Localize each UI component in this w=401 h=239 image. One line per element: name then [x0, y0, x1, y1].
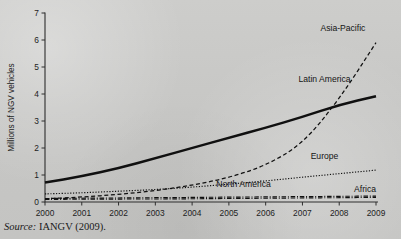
y-axis-tick-label: 0: [34, 197, 39, 207]
series-label-north-america: North America: [216, 179, 271, 189]
x-axis-tick-label: 2008: [330, 208, 349, 218]
ngv-vehicles-line-chart: 0123456720002001200220032004200520062007…: [0, 0, 401, 239]
y-axis-tick-label: 3: [34, 116, 39, 126]
series-label-latin-america: Latin America: [298, 74, 350, 84]
source-text: IANGV (2009).: [39, 221, 106, 232]
x-axis-tick-label: 2009: [367, 208, 386, 218]
series-label-africa: Africa: [354, 184, 376, 194]
y-axis-tick-label: 2: [34, 143, 39, 153]
y-axis-tick-label: 5: [34, 62, 39, 72]
series-label-europe: Europe: [311, 151, 339, 161]
x-axis-tick-label: 2004: [183, 208, 202, 218]
source-prefix: Source:: [4, 221, 36, 232]
y-axis-tick-label: 7: [34, 8, 39, 18]
x-axis-tick-label: 2001: [72, 208, 91, 218]
y-axis-tick-label: 4: [34, 89, 39, 99]
x-axis-tick-label: 2005: [220, 208, 239, 218]
series-line-latin-america: [45, 96, 376, 182]
y-axis-title: Millions of NGV vehicles: [7, 63, 16, 151]
x-axis-tick-label: 2006: [256, 208, 275, 218]
x-axis-tick-label: 2003: [146, 208, 165, 218]
series-label-asia-pacific: Asia-Pacific: [320, 23, 366, 33]
x-axis-tick-label: 2007: [293, 208, 312, 218]
y-axis-tick-label: 1: [34, 170, 39, 180]
x-axis-tick-label: 2000: [36, 208, 55, 218]
chart-svg: 0123456720002001200220032004200520062007…: [0, 0, 401, 239]
series-line-asia-pacific: [45, 43, 376, 199]
y-axis-tick-label: 6: [34, 35, 39, 45]
x-axis-tick-label: 2002: [109, 208, 128, 218]
source-caption: Source: IANGV (2009).: [4, 221, 106, 232]
